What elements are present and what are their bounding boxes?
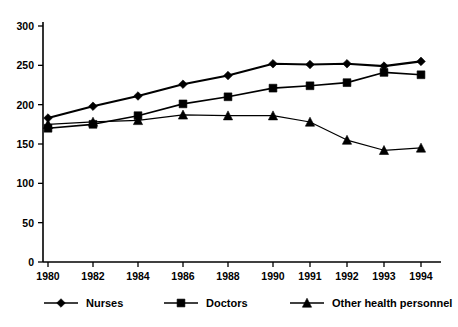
legend-item-doctors: Doctors (164, 297, 248, 309)
y-axis-tick-label: 0 (28, 256, 34, 268)
x-axis-tick-label: 1990 (261, 270, 285, 282)
data-point-doctors-1986 (179, 100, 187, 108)
legend-marker-square-icon (177, 299, 185, 307)
y-axis: 050100150200250300 (16, 20, 43, 268)
data-point-nurses-1984 (134, 92, 143, 101)
chart-canvas: 050100150200250300 198019821984198619881… (0, 0, 458, 327)
line-chart-figure: 050100150200250300 198019821984198619881… (0, 0, 458, 327)
data-point-nurses-1994 (417, 57, 426, 66)
chart-legend: NursesDoctorsOther health personnel (44, 297, 452, 309)
data-point-nurses-1990 (269, 59, 278, 68)
data-point-doctors-1992 (343, 79, 351, 87)
y-axis-tick-label: 250 (16, 59, 34, 71)
series-line-other-health-personnel (48, 115, 421, 150)
x-axis-tick-label: 1980 (36, 270, 60, 282)
data-point-nurses-1988 (224, 71, 233, 80)
data-point-doctors-1988 (224, 93, 232, 101)
legend-marker-diamond-icon (57, 299, 66, 308)
data-point-doctors-1991 (306, 82, 314, 90)
x-axis-tick-label: 1984 (126, 270, 150, 282)
y-axis-tick-label: 300 (16, 20, 34, 32)
x-axis-tick-label: 1986 (171, 270, 195, 282)
y-axis-tick-label: 150 (16, 138, 34, 150)
data-point-doctors-1993 (380, 69, 388, 77)
data-point-nurses-1986 (179, 80, 188, 89)
series-layer (43, 57, 425, 154)
x-axis-tick-label: 1993 (372, 270, 396, 282)
series-doctors (44, 69, 425, 133)
series-line-doctors (48, 72, 421, 128)
x-axis-tick-label: 1991 (298, 270, 322, 282)
legend-item-other-health-personnel: Other health personnel (290, 297, 452, 309)
x-axis-tick-label: 1982 (81, 270, 105, 282)
data-point-nurses-1991 (306, 60, 315, 69)
y-axis-tick-label: 200 (16, 99, 34, 111)
data-point-nurses-1992 (343, 59, 352, 68)
legend-label-doctors: Doctors (206, 297, 248, 309)
legend-label-other-health-personnel: Other health personnel (332, 297, 452, 309)
x-axis-tick-label: 1994 (409, 270, 433, 282)
x-axis-tick-label: 1992 (335, 270, 359, 282)
x-axis-tick-label: 1988 (216, 270, 240, 282)
y-axis-tick-label: 100 (16, 177, 34, 189)
y-axis-tick-label: 50 (22, 217, 34, 229)
series-nurses (44, 57, 426, 122)
legend-label-nurses: Nurses (86, 297, 123, 309)
legend-item-nurses: Nurses (44, 297, 123, 309)
x-axis: 1980198219841986198819901991199219931994 (36, 262, 441, 282)
data-point-doctors-1994 (417, 71, 425, 79)
data-point-nurses-1982 (89, 102, 98, 111)
data-point-doctors-1990 (269, 84, 277, 92)
data-point-other-health-personnel-1992 (342, 135, 351, 144)
series-line-nurses (48, 61, 421, 118)
series-other-health-personnel (43, 110, 425, 154)
